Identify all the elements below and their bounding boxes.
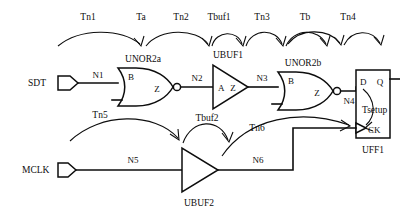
port-label-sdt: SDT [28,78,46,88]
delay-label-tn4: Tn4 [340,12,356,22]
gate-ubuf2[interactable]: UBUF2 [182,148,218,208]
net-label-n6: N6 [253,155,264,165]
timing-path-schematic: Tn1 Ta Tn2 Tbuf1 Tn3 Tb Tn4 SDT N1 B Z U… [0,0,400,215]
instance-label-unor2b: UNOR2b [285,58,322,68]
inversion-bubble-unor2b [333,87,340,94]
pin-label-unor2a-b: B [128,72,134,82]
delay-arc-tn1 [58,32,144,46]
delay-arc-row-bottom: Tn5 Tbuf2 Tn6 [70,110,350,156]
delay-label-tbuf2: Tbuf2 [195,113,218,123]
delay-arc-tn5 [70,119,179,141]
inversion-bubble-unor2a [173,83,180,90]
delay-label-tsetup: Tsetup [362,105,387,115]
delay-arc-tbuf2 [183,124,233,143]
pin-label-uff1-d: D [360,77,367,87]
net-label-n2: N2 [192,73,203,83]
delay-label-tb: Tb [300,12,311,22]
net-label-n3: N3 [257,73,268,83]
pin-label-ubuf1-a: A [218,83,225,93]
wire-n6 [218,128,356,170]
gate-ubuf1[interactable]: A Z UBUF1 [213,50,248,109]
net-label-n1: N1 [93,70,104,80]
port-mclk[interactable]: MCLK [22,163,76,177]
delay-arc-row-top: Tn1 Ta Tn2 Tbuf1 Tn3 Tb Tn4 [58,12,384,46]
delay-label-tn3: Tn3 [254,12,270,22]
delay-arc-tn6 [222,117,350,156]
delay-label-tn6: Tn6 [249,123,265,133]
instance-label-uff1: UFF1 [362,145,384,155]
port-sdt[interactable]: SDT [28,76,78,90]
delay-label-ta: Ta [136,12,146,22]
port-label-mclk: MCLK [22,165,50,175]
pin-label-unor2b-z: Z [314,88,320,98]
delay-arc-ta [146,32,212,46]
gate-unor2a[interactable]: B Z UNOR2a [112,54,181,106]
instance-label-ubuf2: UBUF2 [184,198,214,208]
instance-label-ubuf1: UBUF1 [213,50,243,60]
pin-label-unor2a-z: Z [154,84,160,94]
delay-label-tn1: Tn1 [80,12,96,22]
gate-unor2b[interactable]: B Z UNOR2b [272,58,341,110]
circuit-diagram-canvas: Tn1 Ta Tn2 Tbuf1 Tn3 Tb Tn4 SDT N1 B Z U… [0,0,400,215]
delay-label-tbuf1: Tbuf1 [207,12,230,22]
delay-arc-tn2 [212,34,246,46]
delay-arc-tbuf1 [246,32,286,46]
wire-n4 [341,87,356,91]
pin-label-uff1-q: Q [377,77,384,87]
pin-label-ubuf1-z: Z [230,83,236,93]
instance-label-unor2a: UNOR2a [125,54,162,64]
net-label-n4: N4 [344,96,355,106]
delay-label-tn2: Tn2 [173,12,189,22]
delay-arc-tn4 [344,33,384,45]
pin-label-unor2b-b: B [288,76,294,86]
net-label-n5: N5 [128,155,139,165]
delay-label-tn5: Tn5 [92,110,108,120]
